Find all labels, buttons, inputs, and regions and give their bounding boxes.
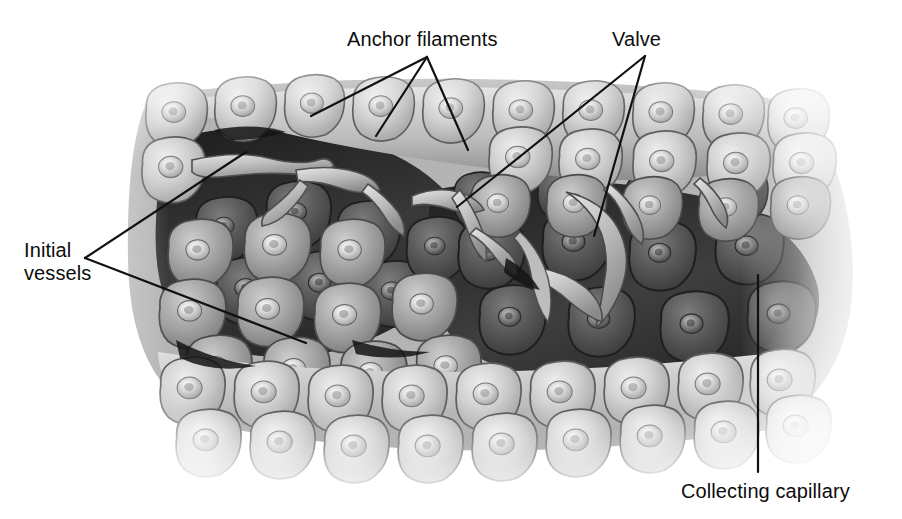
illustration-body bbox=[0, 0, 902, 519]
edge-fade bbox=[0, 0, 902, 519]
lymphatic-illustration bbox=[0, 0, 902, 519]
lymphatic-capillary-figure: Anchor filaments Valve Initial vessels C… bbox=[0, 0, 902, 519]
